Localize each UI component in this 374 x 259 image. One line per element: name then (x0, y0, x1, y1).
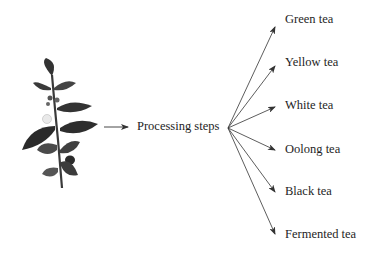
output-label-white-tea: White tea (285, 98, 333, 113)
arrow-black-tea (228, 128, 275, 192)
arrow-white-tea (228, 107, 275, 128)
output-label-green-tea: Green tea (285, 12, 333, 27)
processing-steps-label: Processing steps (137, 119, 219, 134)
output-label-yellow-tea: Yellow tea (285, 55, 338, 70)
tea-plant-icon (22, 58, 98, 188)
output-arrows (228, 27, 275, 234)
arrow-green-tea (228, 27, 275, 128)
arrow-oolong-tea (228, 128, 275, 150)
arrow-fermented-tea (228, 128, 275, 234)
tea-processing-diagram: Processing steps Green tea Yellow tea Wh… (0, 0, 374, 259)
output-label-oolong-tea: Oolong tea (285, 142, 340, 157)
output-label-fermented-tea: Fermented tea (285, 227, 356, 242)
arrow-yellow-tea (228, 66, 275, 128)
output-label-black-tea: Black tea (285, 184, 332, 199)
